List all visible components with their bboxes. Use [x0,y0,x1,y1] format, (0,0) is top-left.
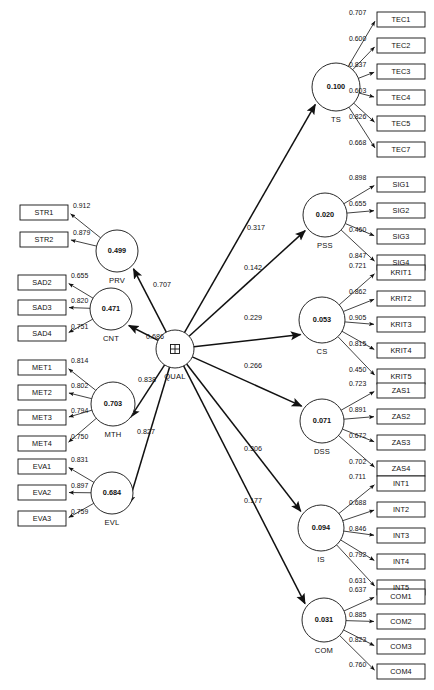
loading-value: 0.655 [349,200,366,207]
path-coefficient: 0.142 [244,263,262,272]
indicator-label: TEC3 [391,67,410,76]
path-coefficient: 0.306 [244,444,262,453]
loading-value: 0.879 [73,229,90,236]
construct-name-prv: PRV [109,276,126,285]
loading-value: 0.898 [349,174,366,181]
loading-value: 0.750 [71,433,88,440]
path-coefficient: 0.707 [153,280,171,289]
loading-value: 0.820 [71,297,88,304]
edge-line [346,621,374,622]
indicator-label: STR2 [34,235,53,244]
loading-value: 0.460 [349,226,366,233]
edge-line [343,299,374,311]
edge-line [347,211,374,213]
loading-value: 0.794 [71,407,88,414]
loading-value: 0.707 [349,9,366,16]
loading-value: 0.802 [71,382,88,389]
edge-line [184,104,315,332]
indicator-label: INT2 [393,505,409,514]
loading-value: 0.631 [349,577,366,584]
indicator-label: ZAS4 [392,464,411,473]
indicator-label: ZAS3 [392,438,411,447]
edge-line [69,284,93,299]
indicator-label: EVA1 [33,462,52,471]
loading-value: 0.711 [349,473,366,480]
construct-name-cnt: CNT [103,334,119,343]
indicator-label: KRIT3 [390,320,411,329]
construct-name-is: IS [317,555,325,564]
path-coefficient: 0.317 [247,223,265,232]
indicator-label: SIG2 [392,206,409,215]
loading-value: 0.668 [349,139,366,146]
path-coefficient: 0.266 [244,361,262,370]
edge-line [344,417,374,420]
edge-line [69,468,94,483]
loading-value: 0.826 [349,113,366,120]
loading-value: 0.672 [349,432,366,439]
indicator-label: SAD4 [32,329,51,338]
construct-name-cs: CS [317,347,328,356]
loading-value: 0.891 [349,406,366,413]
loading-value: 0.603 [349,87,366,94]
edge-line [345,322,374,324]
construct-r2-value: 0.071 [313,416,331,425]
indicator-label: COM3 [390,642,411,651]
edge-line [69,393,92,399]
edge-line [69,308,90,309]
indicator-label: KRIT4 [390,346,411,355]
indicator-label: SIG3 [392,232,409,241]
loading-value: 0.721 [349,262,366,269]
path-coefficient: 0.686 [146,332,164,341]
indicator-label: TEC1 [391,15,410,24]
loading-value: 0.450 [349,366,366,373]
loading-value: 0.688 [349,499,366,506]
indicator-label: SAD2 [32,278,51,287]
edge-line [343,510,374,521]
indicator-label: TEC2 [391,41,410,50]
indicator-label: KRIT5 [390,372,411,381]
construct-name-ts: TS [331,115,341,124]
labels-layer: QUAL0.499PRVSTR10.912STR20.8790.7070.471… [32,9,412,676]
construct-r2-value: 0.471 [102,304,120,313]
indicator-label: SIG1 [392,180,409,189]
edge-line [358,72,374,78]
indicator-label: INT5 [393,583,409,592]
sem-diagram-canvas: QUAL0.499PRVSTR10.912STR20.8790.7070.471… [0,0,434,690]
indicator-label: INT4 [393,557,409,566]
construct-name-evl: EVL [105,518,120,527]
edge-line [71,240,97,246]
indicator-label: STR1 [34,208,53,217]
path-coefficient: 0.838 [138,375,156,384]
construct-r2-value: 0.053 [313,315,331,324]
edge-line [184,366,305,604]
indicator-label: TEC5 [391,119,410,128]
construct-r2-value: 0.094 [312,523,331,532]
path-coefficient: 0.827 [137,427,155,436]
indicator-label: SIG4 [392,258,409,267]
construct-name-qual: QUAL [164,372,185,381]
construct-r2-value: 0.684 [103,488,122,497]
indicator-label: EVA2 [33,488,52,497]
indicator-label: COM1 [390,592,411,601]
edge-line [187,364,301,511]
construct-r2-value: 0.020 [316,210,334,219]
construct-r2-value: 0.100 [327,82,345,91]
indicator-label: ZAS2 [392,412,411,421]
construct-r2-value: 0.703 [104,399,122,408]
construct-name-mth: MTH [104,430,121,439]
indicator-label: MET4 [32,439,52,448]
sem-path-diagram: QUAL0.499PRVSTR10.912STR20.8790.7070.471… [0,0,434,690]
path-coefficient: 0.177 [244,496,262,505]
construct-name-com: COM [315,646,333,655]
loading-value: 0.637 [349,586,366,593]
loading-value: 0.897 [71,482,88,489]
edge-line [130,365,164,417]
indicator-label: MET2 [32,388,52,397]
indicator-label: TEC4 [391,93,410,102]
construct-name-dss: DSS [314,447,330,456]
indicator-label: TEC7 [391,145,410,154]
loading-value: 0.759 [71,508,88,515]
loading-value: 0.702 [349,458,366,465]
loading-value: 0.837 [349,61,366,68]
construct-name-pss: PSS [317,241,333,250]
